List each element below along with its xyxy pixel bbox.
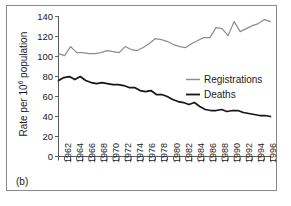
y-tick-label: 140	[27, 11, 53, 22]
y-tick-label: 100	[27, 51, 53, 62]
x-tick-label: 1964	[75, 142, 85, 162]
x-tick-label: 1976	[147, 142, 157, 162]
x-tick-label: 1970	[111, 142, 121, 162]
legend-label-registrations: Registrations	[204, 74, 262, 85]
y-tick-label: 60	[27, 91, 53, 102]
figure-panel-b: Rate per 106 population (b) Registration…	[0, 0, 291, 206]
x-tick-label: 1994	[256, 142, 266, 162]
y-tick-label: 120	[27, 31, 53, 42]
x-tick-label: 1988	[220, 142, 230, 162]
y-tick-label: 40	[27, 111, 53, 122]
x-tick-label: 1978	[159, 142, 169, 162]
legend-label-deaths: Deaths	[204, 89, 236, 100]
y-tick-label: 20	[27, 131, 53, 142]
x-tick-label: 1962	[63, 142, 73, 162]
x-tick-label: 1972	[123, 142, 133, 162]
x-tick-label: 1984	[196, 142, 206, 162]
x-tick-label: 1982	[184, 142, 194, 162]
x-tick-label: 1974	[135, 142, 145, 162]
x-tick-label: 1966	[87, 142, 97, 162]
series-line-registrations	[59, 20, 271, 56]
x-tick-label: 1990	[232, 142, 242, 162]
y-tick-label: 0	[27, 151, 53, 162]
x-tick-label: 1980	[172, 142, 182, 162]
x-tick-label: 1996	[268, 142, 278, 162]
x-tick-label: 1992	[244, 142, 254, 162]
x-tick-label: 1986	[208, 142, 218, 162]
data-series-group	[59, 20, 271, 117]
y-tick-label: 80	[27, 71, 53, 82]
y-axis-ticks	[55, 17, 59, 157]
x-tick-label: 1968	[99, 142, 109, 162]
